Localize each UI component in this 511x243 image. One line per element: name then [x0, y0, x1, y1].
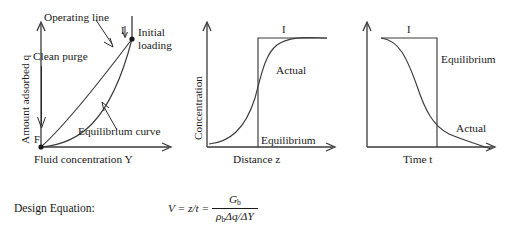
design-equation-block: Design Equation: V = z/t = Gb ρbΔq/ΔY: [0, 185, 511, 243]
label-step-i: I: [407, 24, 411, 35]
chart-adsorption-isotherm: Operating line Clean purge Initial loadi…: [0, 0, 185, 185]
label-operating-line: Operating line: [44, 11, 109, 23]
label-initial-loading-line1: Initial: [138, 26, 165, 38]
operating-line-leader-shaft: [96, 20, 112, 44]
label-step-i: I: [282, 24, 286, 35]
denominator-rest: Δq/ΔY: [225, 210, 253, 222]
label-actual: Actual: [456, 122, 486, 134]
x-axis-title: Distance z: [233, 153, 280, 165]
label-point-final: F: [34, 134, 40, 145]
y-axis-title: Concentration: [192, 76, 204, 140]
label-equilibrium: Equilibrium: [261, 134, 316, 146]
equilibrium-step-line: [381, 38, 437, 147]
point-initial-marker: [129, 36, 134, 41]
design-equation-label: Design Equation:: [14, 202, 95, 215]
numerator-subscript: b: [237, 198, 241, 207]
label-point-initial: I: [121, 25, 125, 36]
chart-concentration-vs-distance: I Actual Equilibrium Concentration Dista…: [185, 0, 345, 185]
x-axis-title: Fluid concentration Y: [34, 153, 133, 165]
label-equilibrium: Equilibrium: [441, 53, 496, 65]
design-equation-lhs: V = z/t =: [168, 203, 212, 214]
label-actual: Actual: [276, 64, 306, 76]
equilibrium-step-line: [258, 38, 327, 147]
design-equation-math: V = z/t = Gb ρbΔq/ΔY: [168, 193, 258, 225]
design-equation-numerator: Gb: [223, 193, 247, 208]
label-equilibrium-curve: Equilibrium curve: [78, 125, 161, 137]
numerator-symbol: G: [229, 193, 237, 205]
design-equation-fraction: Gb ρbΔq/ΔY: [212, 193, 258, 225]
actual-curve: [209, 38, 327, 144]
label-clean-purge: Clean purge: [33, 50, 88, 62]
x-axis-title: Time t: [403, 153, 433, 165]
adsorption-design-figure: Operating line Clean purge Initial loadi…: [0, 0, 511, 243]
design-equation-denominator: ρbΔq/ΔY: [212, 209, 258, 224]
y-axis-title: Amount adsorbed q: [19, 55, 31, 144]
point-final-marker: [38, 144, 43, 149]
label-initial-loading-line2: loading: [138, 39, 172, 51]
chart-concentration-vs-time: I Equilibrium Actual Time t: [345, 0, 511, 185]
